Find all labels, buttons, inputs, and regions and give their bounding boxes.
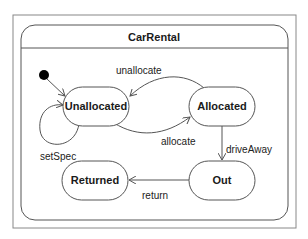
state-out[interactable]: Out — [189, 161, 255, 200]
initial-state-dot[interactable] — [39, 70, 49, 80]
label-driveaway: driveAway — [226, 144, 272, 155]
state-unallocated[interactable]: Unallocated — [63, 87, 129, 126]
composite-state-title: CarRental — [128, 31, 180, 43]
label-unallocate: unallocate — [116, 65, 162, 76]
state-label-allocated: Allocated — [197, 100, 247, 112]
label-return: return — [142, 190, 168, 201]
state-label-unallocated: Unallocated — [65, 100, 127, 112]
state-returned[interactable]: Returned — [62, 161, 128, 200]
state-diagram: CarRental unallocate allocate setSpec dr… — [0, 0, 308, 239]
label-setspec: setSpec — [40, 151, 76, 162]
state-allocated[interactable]: Allocated — [189, 87, 255, 126]
label-allocate: allocate — [161, 136, 196, 147]
state-label-out: Out — [213, 174, 232, 186]
state-label-returned: Returned — [71, 174, 119, 186]
